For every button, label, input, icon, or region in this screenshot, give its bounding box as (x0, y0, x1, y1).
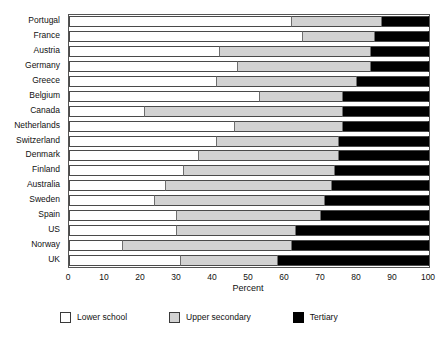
y-axis-label: France (0, 30, 64, 41)
bar-segment (69, 210, 177, 221)
x-axis-tick-label: 30 (171, 272, 180, 282)
bar-segment (177, 210, 321, 221)
bar-segment (199, 150, 339, 161)
x-axis-tick-label: 10 (99, 272, 108, 282)
x-axis-tick-label: 0 (66, 272, 71, 282)
legend-label: Lower school (77, 312, 127, 322)
x-axis-tick-label: 80 (351, 272, 360, 282)
bar-row (69, 180, 429, 191)
bar-segment (332, 180, 429, 191)
y-axis-label: Germany (0, 60, 64, 71)
bar-segment (235, 121, 343, 132)
legend-swatch-icon (169, 312, 180, 323)
legend-swatch-icon (60, 312, 71, 323)
bar-segment (181, 255, 278, 266)
plot-area (68, 14, 430, 268)
bar-row (69, 31, 429, 42)
y-axis-label: Spain (0, 209, 64, 220)
y-axis-label: Austria (0, 45, 64, 56)
bar-segment (69, 255, 181, 266)
bar-segment (292, 16, 382, 27)
bar-row (69, 225, 429, 236)
bar-segment (335, 165, 429, 176)
bar-segment (69, 150, 199, 161)
bar-row (69, 106, 429, 117)
bar-segment (184, 165, 335, 176)
x-axis-tick-label: 40 (207, 272, 216, 282)
bar-segment (69, 136, 217, 147)
bar-segment (339, 150, 429, 161)
bar-segment (69, 46, 220, 57)
bar-segment (69, 240, 123, 251)
bar-segment (69, 165, 184, 176)
bar-segment (69, 91, 260, 102)
bar-segment (357, 76, 429, 87)
bar-row (69, 150, 429, 161)
bar-row (69, 240, 429, 251)
bar-segment (371, 46, 429, 57)
y-axis-label: Switzerland (0, 135, 64, 146)
bar-segment (123, 240, 292, 251)
bar-segment (69, 225, 177, 236)
bar-rows (69, 15, 429, 267)
x-axis-tick-label: 100 (421, 272, 435, 282)
bar-segment (69, 76, 217, 87)
y-axis-label: Belgium (0, 90, 64, 101)
bar-segment (177, 225, 296, 236)
y-axis-label: US (0, 224, 64, 235)
bar-segment (321, 210, 429, 221)
legend-item: Lower school (60, 312, 127, 323)
legend-label: Tertiary (310, 312, 338, 322)
bar-row (69, 165, 429, 176)
bar-segment (69, 31, 303, 42)
bar-row (69, 136, 429, 147)
y-axis-label: Norway (0, 239, 64, 250)
y-axis-label: Canada (0, 105, 64, 116)
bar-segment (292, 240, 429, 251)
bar-segment (69, 121, 235, 132)
bar-segment (217, 136, 339, 147)
bar-row (69, 210, 429, 221)
bar-row (69, 195, 429, 206)
bar-segment (220, 46, 371, 57)
y-axis-label: Denmark (0, 149, 64, 160)
bar-segment (166, 180, 332, 191)
bar-segment (343, 106, 429, 117)
bar-row (69, 46, 429, 57)
bar-segment (260, 91, 343, 102)
bar-segment (371, 61, 429, 72)
bar-row (69, 255, 429, 266)
bar-row (69, 61, 429, 72)
bar-segment (69, 195, 155, 206)
bar-segment (155, 195, 324, 206)
bar-segment (69, 106, 145, 117)
bar-segment (343, 121, 429, 132)
bar-segment (69, 61, 238, 72)
legend-swatch-icon (293, 312, 304, 323)
x-axis-tick-label: 60 (279, 272, 288, 282)
bar-segment (217, 76, 357, 87)
x-axis-title: Percent (68, 283, 428, 293)
bar-row (69, 16, 429, 27)
y-axis-label: UK (0, 254, 64, 265)
bar-segment (238, 61, 371, 72)
bar-segment (69, 16, 292, 27)
x-axis-tick-label: 50 (243, 272, 252, 282)
legend-label: Upper secondary (186, 312, 251, 322)
bar-segment (69, 180, 166, 191)
bar-segment (325, 195, 429, 206)
y-axis-label: Sweden (0, 194, 64, 205)
x-axis-tick-label: 20 (135, 272, 144, 282)
bar-segment (278, 255, 429, 266)
x-axis-tick-label: 70 (315, 272, 324, 282)
bar-segment (339, 136, 429, 147)
y-axis-label: Portugal (0, 15, 64, 26)
bar-segment (343, 91, 429, 102)
bar-segment (296, 225, 429, 236)
y-axis-label: Greece (0, 75, 64, 86)
bar-row (69, 76, 429, 87)
y-axis-category-labels: PortugalFranceAustriaGermanyGreeceBelgiu… (0, 14, 64, 266)
bar-segment (375, 31, 429, 42)
chart-legend: Lower schoolUpper secondaryTertiary (60, 307, 390, 327)
y-axis-label: Australia (0, 179, 64, 190)
